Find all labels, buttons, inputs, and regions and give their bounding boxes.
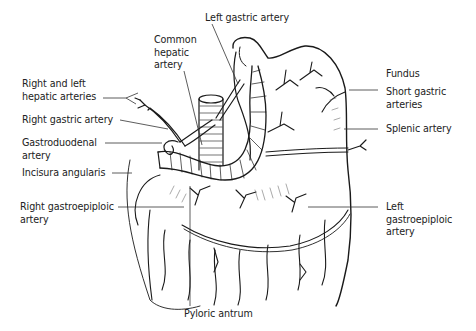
label-common-hepatic-artery: Common hepatic artery — [154, 34, 197, 72]
label-right-left-hepatic-arteries: Right and left hepatic arteries — [22, 78, 96, 103]
duodenum — [158, 66, 252, 166]
lesser-curvature — [234, 52, 250, 160]
leader-right-gastric — [120, 120, 168, 129]
stomach-illustration — [0, 0, 476, 331]
label-short-gastric-arteries: Short gastric arteries — [386, 86, 446, 111]
label-right-gastric-artery: Right gastric artery — [22, 114, 113, 127]
label-incisura-angularis: Incisura angularis — [22, 167, 105, 180]
label-gastroduodenal-artery: Gastroduodenal artery — [22, 137, 97, 162]
common-hepatic-artery — [180, 120, 215, 146]
gastroepiploic-arcade — [182, 210, 348, 248]
label-left-gastroepiploic-artery: Left gastroepiploic artery — [386, 201, 452, 239]
label-right-gastroepiploic-artery: Right gastroepiploic artery — [20, 201, 114, 226]
stomach-artery-diagram: Left gastric artery Common hepatic arter… — [0, 0, 476, 331]
hepatic-artery — [140, 100, 185, 146]
label-fundus: Fundus — [386, 68, 420, 81]
left-gastric-branch — [216, 80, 244, 120]
splenic-artery — [266, 148, 348, 152]
leader-left-gastric — [212, 24, 238, 84]
label-splenic-artery: Splenic artery — [386, 123, 452, 136]
label-pyloric-antrum: Pyloric antrum — [184, 308, 253, 321]
aorta — [199, 95, 223, 103]
greater-omentum — [148, 210, 326, 305]
label-left-gastric-artery: Left gastric artery — [205, 12, 289, 25]
